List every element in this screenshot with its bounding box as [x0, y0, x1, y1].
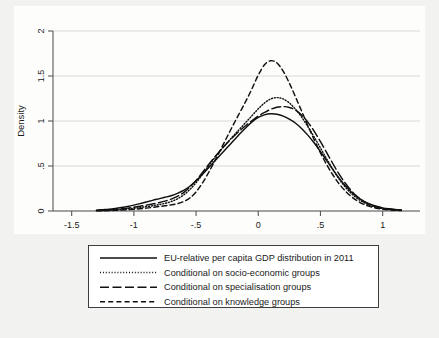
density-curve-1	[97, 98, 402, 211]
x-tick-label--.5: -.5	[191, 220, 202, 230]
density-plot-figure: -1.5-1-.50.51 0.511.52 Density EU-relati…	[0, 0, 439, 338]
y-tick-label-1.5: 1.5	[36, 70, 46, 83]
y-tick-label-1: 1	[36, 118, 46, 123]
x-tick-label-0: 0	[256, 220, 261, 230]
density-curve-3	[97, 61, 402, 211]
density-curves-group	[97, 61, 402, 211]
density-curve-2	[97, 107, 402, 211]
y-axis-ticks-group: 0.511.52	[36, 28, 53, 213]
gridlines-group	[53, 31, 420, 211]
chart-canvas: -1.5-1-.50.51 0.511.52 Density EU-relati…	[0, 0, 439, 338]
legend-label-2: Conditional on specialisation groups	[164, 282, 312, 292]
y-tick-label-2: 2	[36, 28, 46, 33]
legend-label-3: Conditional on knowledge groups	[164, 297, 300, 307]
x-tick-label-.5: .5	[317, 220, 325, 230]
x-tick-label--1: -1	[130, 220, 138, 230]
legend: EU-relative per capita GDP distribution …	[89, 246, 379, 308]
x-tick-label--1.5: -1.5	[64, 220, 80, 230]
y-tick-label-.5: .5	[36, 162, 46, 170]
y-axis-title: Density	[15, 105, 26, 137]
x-tick-label-1: 1	[380, 220, 385, 230]
y-tick-label-0: 0	[36, 208, 46, 213]
legend-label-1: Conditional on socio-economic groups	[164, 268, 320, 278]
x-axis-ticks-group: -1.5-1-.50.51	[64, 211, 385, 230]
legend-label-0: EU-relative per capita GDP distribution …	[164, 253, 354, 263]
